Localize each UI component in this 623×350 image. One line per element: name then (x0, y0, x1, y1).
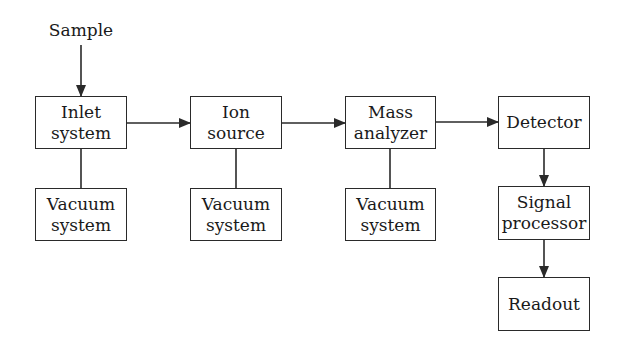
node-line: Vacuum (202, 194, 270, 215)
readout-box: Readout (498, 277, 590, 331)
node-line: Vacuum (47, 194, 115, 215)
node-line: Inlet (51, 102, 111, 123)
node-line: Signal (502, 192, 587, 213)
node-line: Readout (508, 294, 580, 315)
vacuum-system-box-2: Vacuumsystem (190, 188, 282, 241)
inlet-system-box: Inletsystem (35, 96, 127, 149)
node-line: Ion (207, 102, 265, 123)
node-line: Vacuum (356, 194, 424, 215)
ion-source-box: Ionsource (190, 96, 282, 149)
node-line: analyzer (354, 123, 427, 144)
vacuum-system-box-1: Vacuumsystem (35, 188, 127, 241)
sample-label: Sample (48, 20, 114, 40)
vacuum-system-box-3: Vacuumsystem (345, 188, 436, 241)
detector-box: Detector (498, 96, 590, 149)
node-line: source (207, 123, 265, 144)
node-line: system (202, 215, 270, 236)
node-line: system (47, 215, 115, 236)
mass-analyzer-box: Massanalyzer (345, 96, 436, 149)
node-line: Detector (506, 112, 581, 133)
node-line: system (51, 123, 111, 144)
signal-processor-box: Signalprocessor (498, 186, 590, 240)
node-line: processor (502, 213, 587, 234)
node-line: system (356, 215, 424, 236)
node-line: Mass (354, 102, 427, 123)
